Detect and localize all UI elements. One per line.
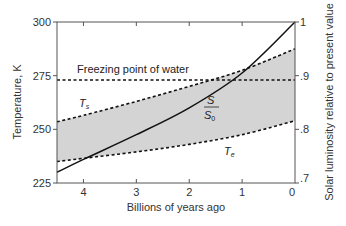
x-tick-label: 2 (186, 186, 192, 198)
ts-label: Ts (79, 97, 90, 110)
x-tick-label: 1 (239, 186, 245, 198)
te-label: Te (224, 145, 235, 158)
y2-tick-label: 1 (300, 16, 306, 28)
y-tick-label: 275 (33, 70, 51, 82)
x-axis-label: Billions of years ago (127, 201, 225, 213)
y-tick-label: 300 (33, 16, 51, 28)
chart: 43210225250275300.7.8.91 Freezing point … (0, 0, 346, 226)
svg-text:S: S (207, 94, 215, 106)
y2-tick-label: .9 (300, 70, 309, 82)
y2-tick-label: .8 (300, 123, 309, 135)
freezing-label: Freezing point of water (77, 63, 189, 75)
y2-axis-label: Solar luminosity relative to present val… (323, 3, 335, 200)
y2-tick-label: .7 (300, 172, 309, 184)
y-tick-label: 225 (33, 177, 51, 189)
x-tick-label: 0 (289, 186, 295, 198)
x-tick-label: 4 (80, 186, 86, 198)
x-tick-label: 3 (133, 186, 139, 198)
y-tick-label: 250 (33, 123, 51, 135)
plot-area (57, 22, 295, 172)
y-axis-label: Temperature, K (11, 64, 23, 140)
